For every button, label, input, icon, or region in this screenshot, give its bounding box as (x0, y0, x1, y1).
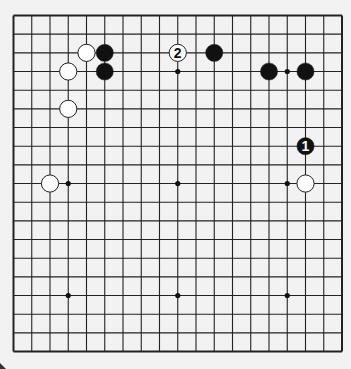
star-point (175, 293, 180, 298)
corner-mark-icon (0, 363, 6, 369)
star-point (175, 69, 180, 74)
star-point (66, 293, 71, 298)
move-number: 1 (302, 138, 310, 154)
black-stone[interactable]: 1 (297, 138, 314, 155)
black-stone[interactable] (96, 44, 113, 61)
white-stone[interactable]: 2 (169, 44, 186, 61)
black-stone[interactable] (206, 44, 223, 61)
star-point (285, 181, 290, 186)
black-stone[interactable] (260, 63, 277, 80)
black-stone[interactable] (96, 63, 113, 80)
white-stone[interactable] (78, 44, 95, 61)
star-point (66, 181, 71, 186)
white-stone[interactable] (60, 63, 77, 80)
star-point (175, 181, 180, 186)
white-stone[interactable] (60, 100, 77, 117)
black-stone[interactable] (297, 63, 314, 80)
white-stone[interactable] (41, 175, 58, 192)
go-board[interactable]: 21 (0, 0, 351, 369)
star-point (285, 293, 290, 298)
star-point (285, 69, 290, 74)
white-stone[interactable] (297, 175, 314, 192)
move-number: 2 (174, 45, 182, 61)
